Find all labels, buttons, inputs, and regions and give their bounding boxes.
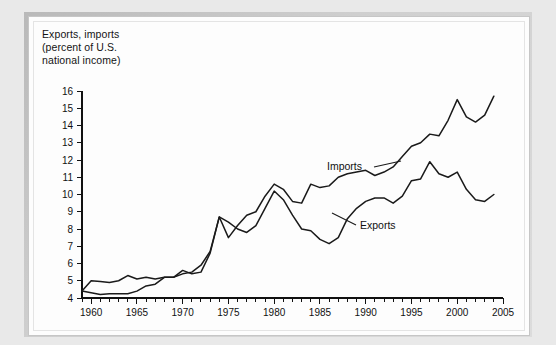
y-axis-tick-label: 11	[63, 172, 74, 183]
x-axis-tick-label: 1990	[355, 307, 378, 318]
series-line-exports	[82, 162, 494, 291]
line-chart: 45678910111213141516 1960196519701975198…	[29, 17, 531, 337]
y-axis-tick-label: 8	[67, 224, 73, 235]
y-axis-tick-label: 10	[62, 189, 74, 200]
x-axis-tick-label: 1995	[400, 307, 423, 318]
y-axis-tick-label: 13	[62, 137, 74, 148]
x-axis-tick-label: 2005	[492, 307, 515, 318]
series-line-imports	[82, 96, 494, 294]
x-axis-tick-label: 1975	[217, 307, 240, 318]
y-axis-tick-label: 15	[62, 103, 74, 114]
x-axis-tick-label: 1970	[172, 307, 195, 318]
screenshot-root: Exports, imports (percent of U.S. nation…	[0, 0, 556, 345]
x-axis-tick-label: 1965	[126, 307, 149, 318]
data-series-group	[82, 96, 494, 294]
annotation-leader-imports	[374, 161, 401, 167]
y-axis-tick-label: 12	[62, 155, 74, 166]
x-axis-tick-label: 1960	[80, 307, 103, 318]
y-axis-tick-label: 4	[67, 293, 73, 304]
annotation-label-imports: Imports	[327, 160, 362, 172]
figure-page: Exports, imports (percent of U.S. nation…	[28, 16, 530, 336]
annotation-label-exports: Exports	[360, 219, 396, 231]
chart-plot-area: 45678910111213141516 1960196519701975198…	[29, 17, 531, 337]
x-axis-tick-label: 1980	[263, 307, 286, 318]
y-axis-tick-label: 5	[67, 275, 73, 286]
x-axis: 1960196519701975198019851990199520002005	[80, 298, 515, 318]
annotation-leader-exports	[332, 213, 356, 225]
y-axis-tick-label: 16	[62, 86, 74, 97]
x-axis-tick-label: 1985	[309, 307, 332, 318]
y-axis-tick-label: 9	[67, 206, 73, 217]
y-axis: 45678910111213141516	[62, 86, 82, 304]
y-axis-tick-label: 7	[67, 241, 73, 252]
y-axis-tick-label: 6	[67, 258, 73, 269]
y-axis-tick-label: 14	[62, 120, 74, 131]
x-axis-tick-label: 2000	[446, 307, 469, 318]
